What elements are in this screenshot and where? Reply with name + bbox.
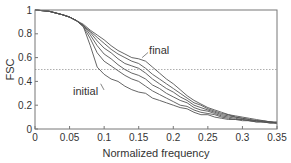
- x-tick-label: 0.25: [198, 132, 218, 143]
- curves: [35, 10, 277, 123]
- y-tick-label: 0.8: [18, 28, 32, 39]
- y-tick-label: 0.6: [18, 52, 32, 63]
- curve-final: [35, 10, 277, 122]
- fsc-chart: 00.050.10.150.20.250.30.35 00.20.40.60.8…: [0, 0, 291, 163]
- annotation-leader-line: [142, 52, 148, 57]
- x-axis-label: Normalized frequency: [103, 147, 210, 159]
- y-tick-label: 1: [26, 5, 32, 16]
- x-tick-label: 0.15: [129, 132, 149, 143]
- x-tick-label: 0.05: [60, 132, 80, 143]
- curve-iteration-4: [35, 10, 277, 123]
- y-tick-label: 0.4: [18, 76, 32, 87]
- y-axis-label: FSC: [4, 58, 16, 80]
- x-tick-label: 0.35: [267, 132, 287, 143]
- annotation-final: final: [149, 44, 169, 56]
- y-tick-label: 0.2: [18, 100, 32, 111]
- y-tick-label: 0: [26, 124, 32, 135]
- annotation-initial: initial: [73, 85, 98, 97]
- x-tick-label: 0.3: [235, 132, 249, 143]
- curve-iteration-2: [35, 10, 277, 123]
- curve-initial: [35, 10, 277, 123]
- x-tick-label: 0.1: [97, 132, 111, 143]
- annotation-leader-line: [101, 84, 104, 90]
- curve-iteration-3: [35, 10, 277, 123]
- x-tick-label: 0.2: [166, 132, 180, 143]
- curve-iteration-5: [35, 10, 277, 123]
- x-tick-label: 0: [32, 132, 38, 143]
